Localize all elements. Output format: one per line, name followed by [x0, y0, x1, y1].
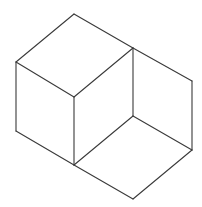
edge-front_bottom-inner: [74, 116, 133, 165]
edge-top-left_top: [16, 14, 74, 62]
edge-left_bottom-front_bottom: [16, 131, 74, 165]
edge-front_bottom-bottom: [74, 165, 133, 199]
edge-left_top-front_top: [16, 62, 74, 97]
cube-line-drawing: [0, 0, 202, 207]
cube-edges: [16, 14, 192, 199]
edge-front_top-mid_top: [74, 48, 133, 97]
edge-inner-right_bottom: [133, 116, 192, 150]
edge-mid_top-right_top: [133, 48, 192, 81]
edge-right_bottom-bottom: [133, 150, 192, 199]
edge-top-mid_top: [74, 14, 133, 48]
